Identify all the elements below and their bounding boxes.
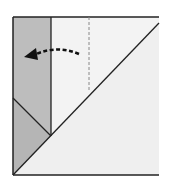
- origami-diagram: [0, 0, 175, 188]
- diagram-canvas: [0, 0, 175, 188]
